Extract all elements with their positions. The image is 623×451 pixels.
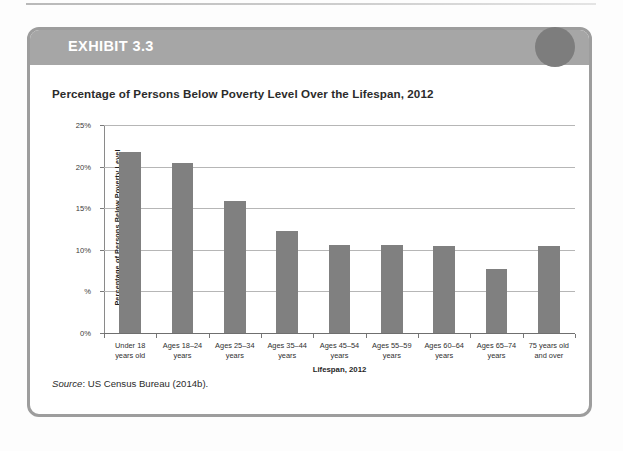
x-tick-mark — [366, 334, 367, 338]
x-tick-mark — [104, 334, 105, 338]
x-tick-label-line: Under 18 — [100, 341, 160, 351]
page-background: EXHIBIT 3.3 Percentage of Persons Below … — [0, 0, 623, 451]
source-text: : US Census Bureau (2014b). — [82, 378, 208, 389]
page-top-rule — [26, 3, 596, 5]
x-tick-label-line: and over — [519, 351, 579, 361]
y-tick-label: 10% — [51, 245, 91, 254]
x-tick-label-line: years — [309, 351, 369, 361]
x-tick-label-line: years — [466, 351, 526, 361]
y-tick-label: 0% — [51, 329, 91, 338]
x-tick-label-line: years — [152, 351, 212, 361]
x-tick-label-line: years — [414, 351, 474, 361]
x-tick-label-line: Ages 45–54 — [309, 341, 369, 351]
bar — [119, 152, 141, 333]
bar — [172, 163, 194, 333]
x-tick-mark — [575, 334, 576, 338]
exhibit-card: EXHIBIT 3.3 Percentage of Persons Below … — [27, 27, 592, 417]
bar — [224, 201, 246, 333]
y-tick-mark — [100, 291, 104, 292]
x-tick-label: Under 18years old — [100, 341, 160, 361]
bar — [276, 231, 298, 333]
bar — [433, 246, 455, 333]
bar — [538, 246, 560, 333]
y-tick-mark — [100, 250, 104, 251]
x-tick-mark — [261, 334, 262, 338]
y-tick-label: 15% — [51, 204, 91, 213]
x-tick-mark — [523, 334, 524, 338]
bar — [381, 245, 403, 333]
x-axis-title: Lifespan, 2012 — [104, 365, 575, 374]
y-tick-mark — [100, 167, 104, 168]
x-tick-mark — [313, 334, 314, 338]
source-note: Source: US Census Bureau (2014b). — [52, 378, 208, 389]
x-axis-line — [104, 333, 575, 334]
x-tick-label: Ages 60–64years — [414, 341, 474, 361]
y-tick-mark — [100, 125, 104, 126]
x-tick-mark — [209, 334, 210, 338]
y-gridline — [104, 125, 575, 126]
x-tick-mark — [418, 334, 419, 338]
x-tick-label: Ages 18–24years — [152, 341, 212, 361]
x-tick-label-line: years — [257, 351, 317, 361]
y-axis-line — [104, 125, 105, 333]
bar — [329, 245, 351, 333]
x-tick-label-line: Ages 55–59 — [362, 341, 422, 351]
bar — [486, 269, 508, 333]
x-tick-label-line: Ages 18–24 — [152, 341, 212, 351]
x-tick-label-line: Ages 65–74 — [466, 341, 526, 351]
y-tick-mark — [100, 208, 104, 209]
x-tick-label-line: Ages 60–64 — [414, 341, 474, 351]
x-tick-mark — [156, 334, 157, 338]
x-tick-label-line: years old — [100, 351, 160, 361]
x-tick-label-line: Ages 25–34 — [205, 341, 265, 351]
x-tick-label-line: 75 years old — [519, 341, 579, 351]
x-tick-label-line: years — [205, 351, 265, 361]
source-label: Source — [52, 378, 82, 389]
y-tick-label: 25% — [51, 121, 91, 130]
x-tick-label: 75 years oldand over — [519, 341, 579, 361]
x-tick-mark — [470, 334, 471, 338]
x-tick-label: Ages 55–59years — [362, 341, 422, 361]
y-tick-label: % — [51, 287, 91, 296]
x-tick-label: Ages 35–44years — [257, 341, 317, 361]
y-tick-label: 20% — [51, 162, 91, 171]
x-tick-label: Ages 25–34years — [205, 341, 265, 361]
x-tick-label: Ages 65–74years — [466, 341, 526, 361]
bar-chart: 0%%10%15%20%25%Percentage of Persons Bel… — [30, 30, 589, 414]
x-tick-label-line: Ages 35–44 — [257, 341, 317, 351]
x-tick-label-line: years — [362, 351, 422, 361]
x-tick-label: Ages 45–54years — [309, 341, 369, 361]
